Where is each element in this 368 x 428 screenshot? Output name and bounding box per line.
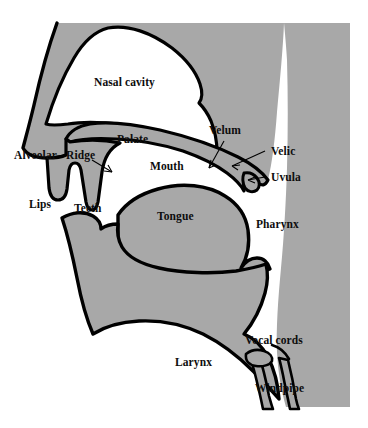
label-lips: Lips xyxy=(29,198,52,211)
label-uvula: Uvula xyxy=(271,171,301,183)
label-larynx: Larynx xyxy=(175,356,212,369)
label-mouth: Mouth xyxy=(150,160,184,172)
diagram-canvas: Nasal cavity Palate Velum Velic Uvula Al… xyxy=(0,0,368,428)
label-tongue: Tongue xyxy=(157,210,194,223)
label-velic: Velic xyxy=(271,145,295,157)
label-alveolar: Alveolar xyxy=(14,149,57,161)
label-ridge: Ridge xyxy=(66,149,95,162)
label-pharynx: Pharynx xyxy=(256,218,299,231)
uvula-region xyxy=(243,173,259,192)
label-palate: Palate xyxy=(117,133,148,145)
label-velum: Velum xyxy=(209,124,241,136)
label-vocal-cords: Vocal cords xyxy=(245,334,303,346)
label-windpipe: Windpipe xyxy=(255,382,304,395)
label-teeth: Teeth xyxy=(74,202,102,214)
label-nasal-cavity: Nasal cavity xyxy=(94,76,155,89)
vocal-tract-diagram: Nasal cavity Palate Velum Velic Uvula Al… xyxy=(0,0,368,428)
